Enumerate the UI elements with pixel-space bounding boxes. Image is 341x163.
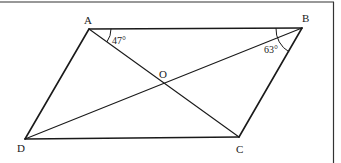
vertex-label-a: A bbox=[84, 14, 92, 26]
vertex-label-d: D bbox=[17, 142, 25, 154]
vertex-label-c: C bbox=[236, 143, 243, 155]
intersection-label-o: O bbox=[159, 68, 167, 80]
side-da bbox=[25, 29, 89, 139]
vertex-label-b: B bbox=[302, 12, 309, 24]
diagonals bbox=[25, 28, 302, 139]
parallelogram-diagram: A B C D O 47° 63° bbox=[0, 0, 341, 163]
diagonal-bd bbox=[25, 28, 302, 139]
side-cd bbox=[25, 137, 239, 139]
side-ab bbox=[89, 28, 302, 29]
angle-label-b: 63° bbox=[264, 44, 278, 55]
angle-arc-a bbox=[107, 29, 111, 42]
angle-label-a: 47° bbox=[112, 35, 126, 46]
